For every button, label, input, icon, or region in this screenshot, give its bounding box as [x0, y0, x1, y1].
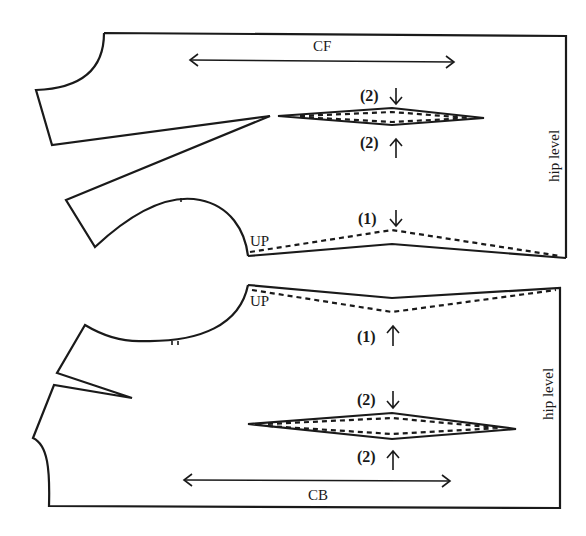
back-dart-bottom-marker: (2) — [357, 448, 376, 466]
front-panel: CF (2) (2) (1) UP hip level — [36, 33, 566, 258]
back-waist-dart — [248, 413, 516, 439]
front-dart-bottom-marker: (2) — [360, 134, 379, 152]
arrow-up-icon — [390, 139, 402, 158]
back-hem-marker: (1) — [357, 328, 376, 346]
front-waist-dart — [278, 108, 484, 125]
front-dart-top-marker: (2) — [360, 87, 379, 105]
arrow-down-icon — [390, 88, 402, 104]
cf-label: CF — [313, 38, 331, 54]
back-hem-dashed — [252, 290, 556, 312]
back-outline — [33, 285, 560, 508]
arrow-down-icon — [390, 210, 402, 226]
back-grainline — [184, 474, 450, 487]
front-hem-line — [248, 244, 566, 258]
cb-label: CB — [308, 487, 328, 503]
front-up-label: UP — [250, 233, 269, 249]
front-grainline — [190, 54, 454, 68]
pattern-diagram: CF (2) (2) (1) UP hip level UP (1) — [0, 0, 586, 536]
arrow-up-icon — [387, 326, 399, 346]
back-panel: UP (1) (2) (2) CB hip level — [33, 285, 560, 508]
front-lower-outline — [66, 116, 270, 256]
front-hip-level-label: hip level — [546, 130, 562, 182]
front-hem-marker: (1) — [358, 210, 377, 228]
back-dart-top-marker: (2) — [357, 391, 376, 409]
front-upper-outline — [36, 33, 566, 258]
back-up-label: UP — [250, 293, 269, 309]
arrow-up-icon — [387, 451, 399, 470]
armhole-double-notch — [172, 341, 178, 345]
back-hip-level-label: hip level — [540, 368, 556, 420]
arrow-down-icon — [387, 391, 399, 408]
